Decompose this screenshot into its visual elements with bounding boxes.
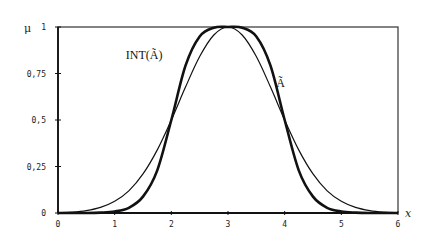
x-tick-label: 1 (112, 220, 117, 229)
membership-chart: 012345600,250,50,751 μ x INT(Ã) Ã (0, 0, 426, 241)
y-axis-label: μ (24, 22, 31, 35)
a-curve-label: Ã (276, 76, 285, 90)
plot-frame (58, 27, 398, 213)
axis-ticks: 012345600,250,50,751 (27, 23, 401, 229)
x-tick-label: 4 (282, 220, 287, 229)
y-tick-label: 0 (41, 209, 46, 218)
y-tick-label: 0,5 (32, 116, 47, 125)
a-curve (58, 27, 398, 213)
x-tick-label: 3 (226, 220, 231, 229)
curves (58, 27, 398, 213)
y-tick-label: 0,75 (27, 70, 46, 79)
int-a-curve (58, 27, 398, 213)
x-axis-label: x (405, 207, 412, 220)
x-tick-label: 2 (169, 220, 174, 229)
y-tick-label: 1 (41, 23, 46, 32)
int-curve-label: INT(Ã) (126, 48, 163, 62)
plot-border (58, 27, 398, 213)
y-tick-label: 0,25 (27, 163, 46, 172)
x-tick-label: 6 (396, 220, 401, 229)
x-tick-label: 5 (339, 220, 344, 229)
x-tick-label: 0 (56, 220, 61, 229)
